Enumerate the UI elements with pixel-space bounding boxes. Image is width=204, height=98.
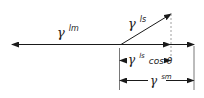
- label-gamma-lm: γ lm: [57, 23, 79, 40]
- label-gamma-sm: γ sm: [150, 71, 172, 88]
- label-gamma-ls: γ ls: [128, 14, 146, 31]
- label-gamma-ls-cos-theta: γ ls cos θ: [128, 44, 173, 67]
- surface-tension-diagram: γ lm γ ls γ ls cos θ γ sm: [0, 0, 204, 98]
